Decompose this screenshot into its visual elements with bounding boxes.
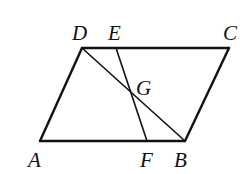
label-a: A bbox=[26, 148, 41, 172]
label-d: D bbox=[71, 21, 87, 45]
label-b: B bbox=[174, 148, 187, 172]
side-bc bbox=[185, 48, 229, 141]
diagonal-db bbox=[82, 48, 185, 141]
label-e: E bbox=[107, 21, 121, 45]
side-da bbox=[40, 48, 82, 141]
label-c: C bbox=[223, 21, 238, 45]
label-f: F bbox=[139, 148, 153, 172]
label-g: G bbox=[136, 76, 151, 100]
geometry-diagram: D E C G A F B bbox=[0, 0, 248, 174]
